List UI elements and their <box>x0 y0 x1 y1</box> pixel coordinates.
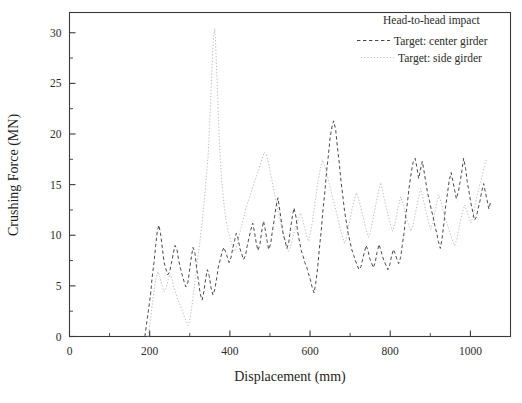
y-tick-label: 10 <box>50 229 62 241</box>
series-line-target-side-girder <box>148 29 487 337</box>
x-tick-label: 600 <box>301 345 319 357</box>
y-tick-label: 5 <box>56 280 62 292</box>
y-tick-label: 25 <box>50 77 62 89</box>
y-tick-label: 0 <box>56 331 62 343</box>
legend: Head-to-head impact Target: center girde… <box>357 14 488 65</box>
y-tick-label: 15 <box>50 179 62 191</box>
y-tick-label: 30 <box>50 27 62 39</box>
y-axis-tick-labels: 051015202530 <box>50 27 62 343</box>
axis-ticks <box>70 33 511 337</box>
y-axis-title: Crushing Force (MN) <box>6 114 22 236</box>
x-tick-label: 800 <box>382 345 400 357</box>
legend-label-center-girder: Target: center girder <box>394 35 488 48</box>
crushing-force-displacement-chart: 02004006008001000 051015202530 Displacem… <box>0 0 522 403</box>
y-tick-label: 20 <box>50 128 62 140</box>
x-tick-label: 1000 <box>459 345 482 357</box>
legend-label-side-girder: Target: side girder <box>398 52 482 65</box>
data-series-group <box>145 29 491 337</box>
x-axis-title: Displacement (mm) <box>234 369 346 385</box>
legend-title: Head-to-head impact <box>383 14 481 27</box>
chart-figure: 02004006008001000 051015202530 Displacem… <box>0 0 522 403</box>
x-axis-tick-labels: 02004006008001000 <box>67 345 483 357</box>
x-tick-label: 400 <box>221 345 239 357</box>
series-line-target-center-girder <box>145 121 491 337</box>
x-tick-label: 200 <box>141 345 159 357</box>
x-tick-label: 0 <box>67 345 73 357</box>
